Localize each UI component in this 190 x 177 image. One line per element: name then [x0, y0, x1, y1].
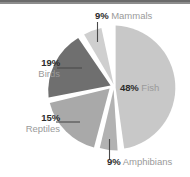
- slice-label-birds: 19% Birds: [8, 57, 60, 79]
- slice-name-birds: Birds: [8, 68, 60, 79]
- slice-name-mammals: Mammals: [111, 10, 152, 21]
- slice-pct-mammals: 9%: [95, 10, 109, 21]
- slice-label-reptiles: 15% Reptiles: [2, 112, 60, 134]
- slice-name-amphibians: Amphibians: [123, 156, 173, 167]
- slice-pct-amphibians: 9%: [107, 156, 121, 167]
- slice-label-amphibians: 9% Amphibians: [107, 156, 172, 167]
- slice-pct-birds: 19%: [41, 57, 60, 68]
- slice-name-reptiles: Reptiles: [2, 123, 60, 134]
- slice-pct-fish: 48%: [120, 82, 139, 93]
- slice-label-fish: 48% Fish: [120, 82, 159, 93]
- pie-chart: 9% Mammals 48% Fish 9% Amphibians 19% Bi…: [0, 0, 190, 177]
- slice-pct-reptiles: 15%: [41, 112, 60, 123]
- slice-name-fish: Fish: [141, 82, 159, 93]
- pie-graphic: [0, 0, 190, 177]
- slice-label-mammals: 9% Mammals: [95, 10, 152, 21]
